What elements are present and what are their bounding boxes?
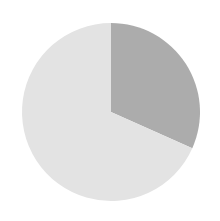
pie-chart-canvas xyxy=(0,0,220,221)
pie-slices-group xyxy=(22,23,200,201)
pie-chart-figure xyxy=(0,0,220,221)
